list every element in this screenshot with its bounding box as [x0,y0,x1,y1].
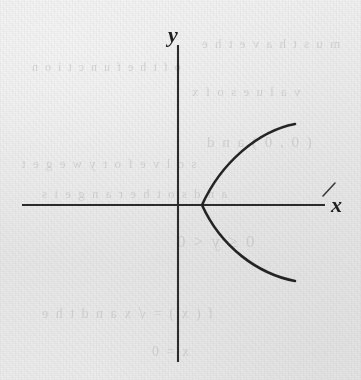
y-axis-label: y [168,22,178,48]
parabola-curve [202,124,295,281]
x-axis-label: x [331,192,342,218]
coordinate-plane-svg [0,0,361,380]
scanned-figure: m u s t h a v e t h eo f t h e f u n c t… [0,0,361,380]
